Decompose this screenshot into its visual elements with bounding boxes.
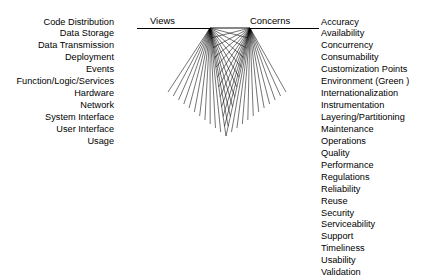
- concerns-fan-lines: [210, 28, 286, 136]
- views-axis-title: Views: [150, 15, 175, 26]
- view-item: Code Distribution: [0, 17, 114, 29]
- views-fan-lines: [168, 28, 250, 136]
- concern-item: Support: [321, 231, 424, 243]
- concern-item: Usability: [321, 255, 424, 267]
- view-item: System Interface: [0, 112, 114, 124]
- concerns-axis-title: Concerns: [250, 15, 290, 26]
- view-item: Hardware: [0, 88, 114, 100]
- concern-item: Validation: [321, 267, 424, 276]
- diagram-canvas: Views Concerns Code DistributionData Sto…: [0, 0, 424, 276]
- concern-item: Maintenance: [321, 124, 424, 136]
- concern-item: Serviceability: [321, 219, 424, 231]
- concerns-list: AccuracyAvailabilityConcurrencyConsumabi…: [321, 17, 424, 276]
- concern-item: Instrumentation: [321, 100, 424, 112]
- concerns-axis-rule: [249, 28, 319, 29]
- view-item: Usage: [0, 136, 114, 148]
- concern-item: Quality: [321, 148, 424, 160]
- concern-item: Layering/Partitioning: [321, 112, 424, 124]
- concern-item: Regulations: [321, 172, 424, 184]
- views-axis-rule: [137, 28, 211, 29]
- view-item: Network: [0, 100, 114, 112]
- concern-item: Reuse: [321, 196, 424, 208]
- concern-item: Customization Points: [321, 64, 424, 76]
- concern-item: Environment (Green ): [321, 76, 424, 88]
- concern-item: Security: [321, 208, 424, 220]
- view-item: Data Transmission: [0, 40, 114, 52]
- concern-item: Operations: [321, 136, 424, 148]
- concern-item: Reliability: [321, 184, 424, 196]
- concern-item: Consumability: [321, 52, 424, 64]
- view-item: Deployment: [0, 52, 114, 64]
- views-list: Code DistributionData StorageData Transm…: [0, 17, 114, 148]
- view-item: Data Storage: [0, 28, 114, 40]
- concern-item: Concurrency: [321, 40, 424, 52]
- view-item: User Interface: [0, 124, 114, 136]
- concern-item: Availability: [321, 28, 424, 40]
- concern-item: Internationalization: [321, 88, 424, 100]
- concern-item: Performance: [321, 160, 424, 172]
- view-item: Function/Logic/Services: [0, 76, 114, 88]
- view-item: Events: [0, 64, 114, 76]
- concern-item: Timeliness: [321, 243, 424, 255]
- concern-item: Accuracy: [321, 17, 424, 29]
